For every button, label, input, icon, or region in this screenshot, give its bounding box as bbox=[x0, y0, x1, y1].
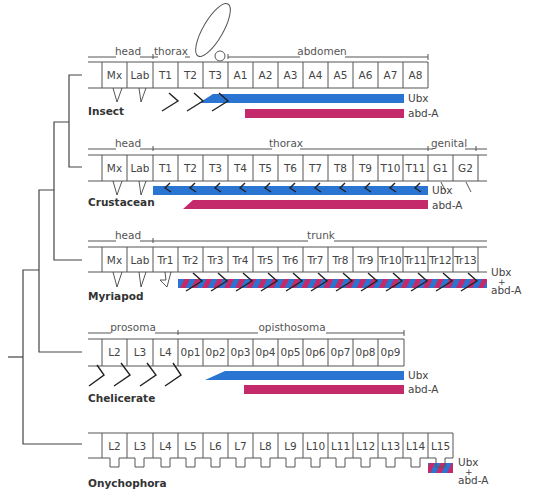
segment-label: 0p1 bbox=[180, 346, 200, 358]
segment-label: T2 bbox=[183, 162, 197, 174]
segment-label: T8 bbox=[333, 162, 347, 174]
region-label-head: head bbox=[115, 229, 141, 241]
region-label-abdomen: abdomen bbox=[297, 45, 347, 57]
segment-label: L4 bbox=[159, 346, 172, 358]
ubx-label: Ubx bbox=[408, 92, 429, 104]
segment-label: L14 bbox=[406, 440, 426, 452]
segment-label: G1 bbox=[433, 162, 448, 174]
segment-label: 0p6 bbox=[305, 346, 325, 358]
segment-label: T11 bbox=[405, 162, 426, 174]
taxon-label-chelicerate: Chelicerate bbox=[88, 392, 155, 404]
segment-label: T4 bbox=[233, 162, 247, 174]
region-label-trunk: trunk bbox=[307, 229, 336, 241]
segment-label: Tr4 bbox=[232, 254, 249, 266]
segment-label: Mx bbox=[107, 254, 122, 266]
abda-label: abd-A bbox=[432, 199, 463, 211]
region-label-thorax: thorax bbox=[154, 45, 188, 57]
abda-label: abd-A bbox=[408, 107, 439, 119]
segment-label: L3 bbox=[134, 440, 147, 452]
phylogenetic-tree bbox=[8, 75, 82, 444]
segment-label: L15 bbox=[431, 440, 450, 452]
segment-label: L13 bbox=[381, 440, 400, 452]
onychophora-row: L2 L3 L4 L5 L6 L7 L8 L9 L10 L11 L12 L13 … bbox=[88, 433, 489, 489]
segment-label: L8 bbox=[259, 440, 272, 452]
segment-labels: Mx Lab T1 T2 T3 T4 T5 T6 T7 T8 T9 T10 T1… bbox=[107, 162, 473, 174]
segment-label: L7 bbox=[234, 440, 247, 452]
segment-label: 0p7 bbox=[330, 346, 350, 358]
segment-label: A5 bbox=[334, 69, 348, 81]
abda-label: abd-A bbox=[491, 284, 522, 296]
mouthpart-icon bbox=[113, 272, 146, 287]
segment-label: 0p5 bbox=[280, 346, 300, 358]
segment-labels: Mx Lab T1 T2 T3 A1 A2 A3 A4 A5 A6 A7 A8 bbox=[107, 69, 423, 81]
abda-label: abd-A bbox=[458, 474, 489, 486]
segment-label: Mx bbox=[107, 162, 122, 174]
region-label-thorax: thorax bbox=[269, 137, 303, 149]
segment-label: T3 bbox=[208, 69, 222, 81]
segment-label: Lab bbox=[131, 69, 150, 81]
segment-label: Tr12 bbox=[428, 254, 452, 266]
segment-label: A1 bbox=[234, 69, 248, 81]
segment-label: Tr7 bbox=[307, 254, 324, 266]
segment-label: 0p9 bbox=[380, 346, 400, 358]
segment-label: Tr10 bbox=[378, 254, 402, 266]
segment-labels: Mx Lab Tr1 Tr2 Tr3 Tr4 Tr5 Tr6 Tr7 Tr8 T… bbox=[107, 254, 477, 266]
region-label-head: head bbox=[115, 45, 141, 57]
segment-label: Tr11 bbox=[403, 254, 427, 266]
arthropod-hox-diagram: head thorax abdomen Mx Lab T1 T2 T3 A1 A… bbox=[0, 0, 537, 498]
segment-label: L3 bbox=[134, 346, 147, 358]
segment-label: L10 bbox=[306, 440, 325, 452]
segment-label: T3 bbox=[208, 162, 222, 174]
mouthpart-icon bbox=[113, 181, 146, 195]
mouthpart-icon bbox=[113, 88, 146, 102]
segment-label: Tr2 bbox=[182, 254, 199, 266]
taxon-label-insect: Insect bbox=[88, 105, 124, 117]
segment-label: T9 bbox=[358, 162, 372, 174]
segment-label: Tr3 bbox=[207, 254, 224, 266]
abda-expression-bar bbox=[244, 385, 404, 394]
segment-label: L4 bbox=[159, 440, 172, 452]
segment-label: L9 bbox=[284, 440, 297, 452]
segment-label: T7 bbox=[308, 162, 322, 174]
segment-label: L2 bbox=[108, 346, 121, 358]
segment-label: A7 bbox=[384, 69, 398, 81]
segment-label: A4 bbox=[309, 69, 323, 81]
segment-label: G2 bbox=[458, 162, 473, 174]
ubx-expression-bar bbox=[199, 94, 404, 103]
taxon-label-crustacean: Crustacean bbox=[88, 196, 155, 208]
segment-label: L12 bbox=[356, 440, 375, 452]
region-label-opisthosoma: opisthosoma bbox=[258, 321, 325, 333]
myriapod-row: head trunk Mx Lab Tr1 Tr2 Tr3 Tr4 Tr5 Tr… bbox=[88, 229, 522, 302]
insect-row: head thorax abdomen Mx Lab T1 T2 T3 A1 A… bbox=[88, 0, 439, 119]
segment-label: Lab bbox=[131, 254, 150, 266]
segment-label: Tr8 bbox=[332, 254, 349, 266]
region-label-prosoma: prosoma bbox=[110, 321, 156, 333]
segment-label: T2 bbox=[183, 69, 197, 81]
segment-label: T10 bbox=[380, 162, 401, 174]
segment-label: T6 bbox=[283, 162, 297, 174]
segment-label: T1 bbox=[158, 162, 172, 174]
region-label-head: head bbox=[115, 137, 141, 149]
haltere-icon bbox=[215, 51, 225, 61]
segment-label: 0p4 bbox=[255, 346, 275, 358]
region-label-genital: genital bbox=[431, 137, 467, 149]
taxon-label-onychophora: Onychophora bbox=[88, 477, 167, 489]
segment-label: A8 bbox=[409, 69, 423, 81]
segment-label: A6 bbox=[359, 69, 373, 81]
taxon-label-myriapod: Myriapod bbox=[88, 290, 143, 302]
abda-expression-bar bbox=[183, 200, 428, 209]
wing-icon bbox=[189, 0, 236, 61]
lobopod-leg-icon bbox=[102, 458, 453, 467]
forcipule-icon bbox=[160, 272, 171, 287]
ubx-abda-combined-bar bbox=[428, 463, 453, 473]
crustacean-row: head thorax genital Mx Lab T1 T2 T3 T4 T… bbox=[88, 137, 487, 211]
segment-labels: L2 L3 L4 L5 L6 L7 L8 L9 L10 L11 L12 L13 … bbox=[108, 440, 450, 452]
abda-expression-bar bbox=[245, 109, 404, 118]
segment-label: L2 bbox=[108, 440, 121, 452]
segment-label: A3 bbox=[284, 69, 298, 81]
ubx-label: Ubx bbox=[432, 184, 453, 196]
segment-label: Tr13 bbox=[453, 254, 477, 266]
segment-label: L11 bbox=[331, 440, 350, 452]
segment-label: Mx bbox=[107, 69, 122, 81]
segment-label: L5 bbox=[184, 440, 197, 452]
